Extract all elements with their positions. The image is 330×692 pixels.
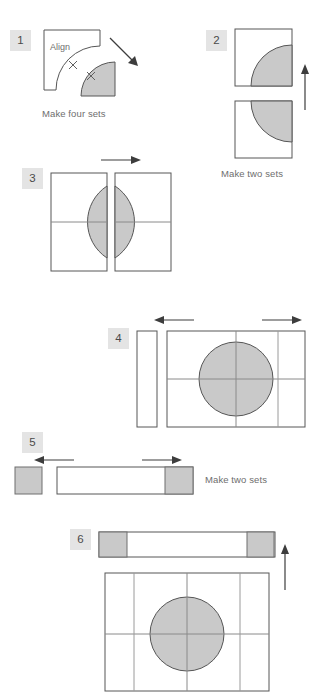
step-6-arrow-up-icon bbox=[276, 542, 296, 592]
step-4-center-block bbox=[166, 330, 306, 428]
step-number-badge-4: 4 bbox=[108, 328, 129, 349]
step-6-top-strip bbox=[98, 531, 276, 559]
step-3-left-half bbox=[50, 172, 108, 272]
step-5-caption: Make two sets bbox=[205, 474, 267, 485]
step-number-badge-5: 5 bbox=[22, 432, 43, 453]
step-2-lower-unit bbox=[234, 100, 296, 162]
step-2-arrow-up-icon bbox=[296, 62, 316, 112]
step-number-badge-1: 1 bbox=[10, 30, 31, 51]
align-label: Align bbox=[50, 42, 70, 52]
step-5-long-strip bbox=[56, 466, 194, 496]
step-4-arrow-left-icon bbox=[150, 312, 196, 328]
step-number-badge-6: 6 bbox=[70, 529, 91, 550]
step-4-left-strip bbox=[136, 330, 158, 428]
step-1-arrow-diagonal-icon bbox=[108, 36, 142, 70]
step-1-caption: Make four sets bbox=[42, 108, 106, 119]
step-2-caption: Make two sets bbox=[221, 168, 283, 179]
step-5-corner-square bbox=[14, 466, 44, 496]
step-3-arrow-right-icon bbox=[99, 152, 145, 168]
step-2-upper-unit bbox=[234, 28, 296, 90]
step-3-right-half bbox=[114, 172, 172, 272]
step-5-arrow-right-icon bbox=[140, 452, 186, 468]
step-4-arrow-right-icon bbox=[260, 312, 306, 328]
step-6-main-block bbox=[104, 572, 270, 692]
step-number-badge-2: 2 bbox=[206, 30, 227, 51]
step-5-arrow-left-icon bbox=[30, 452, 76, 468]
step-number-badge-3: 3 bbox=[22, 168, 43, 189]
